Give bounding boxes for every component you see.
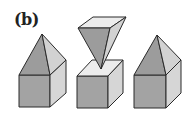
pyramid-on-cube-left xyxy=(19,34,66,107)
cube-front-face xyxy=(19,75,50,107)
inverted-pyramid-over-cube xyxy=(77,17,126,108)
figure-canvas: (b) xyxy=(0,0,189,126)
solids-diagram xyxy=(0,0,189,126)
cube-front-face xyxy=(134,75,166,108)
cube-front-face xyxy=(77,76,108,108)
pyramid-on-cube-right xyxy=(134,35,181,108)
